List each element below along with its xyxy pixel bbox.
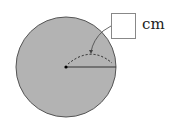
- unit-label: cm: [142, 15, 165, 33]
- answer-box[interactable]: [111, 13, 136, 39]
- circle-diagram: cm: [0, 0, 173, 125]
- center-point: [64, 65, 67, 68]
